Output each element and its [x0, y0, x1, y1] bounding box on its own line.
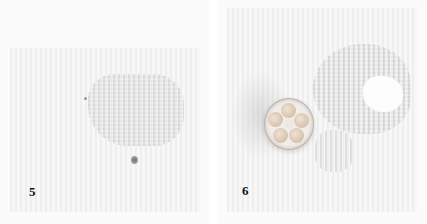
petal [273, 128, 288, 143]
flower-center [284, 119, 294, 129]
small-speck [84, 97, 87, 100]
flower-punch-tool [264, 98, 314, 150]
petal [268, 112, 283, 127]
photo-panel-6: 6 [217, 0, 427, 224]
small-flower-imprint [315, 130, 353, 172]
panel-label: 6 [242, 183, 249, 199]
photo-panel-5: 5 [0, 0, 210, 224]
petal [289, 128, 304, 143]
petal [281, 103, 296, 118]
flower-cutout [363, 76, 403, 112]
panel-label: 5 [29, 184, 36, 200]
petal [294, 113, 309, 128]
rounded-cutout-region [88, 74, 184, 146]
dark-dot [131, 156, 138, 164]
